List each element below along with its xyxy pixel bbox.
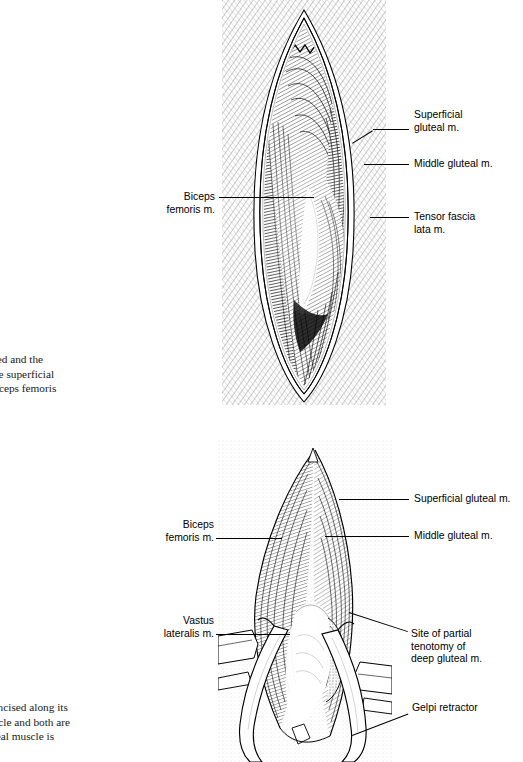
label-biceps-femoris-bottom: Biceps femoris m. <box>110 519 214 544</box>
caption-line: a lata and biceps femoris <box>0 381 56 396</box>
label-vastus-lateralis-bottom: Vastus lateralis m. <box>110 615 214 640</box>
label-line: gluteal m. <box>414 122 463 135</box>
label-line: Gelpi retractor <box>412 702 478 715</box>
caption-line: deep gluteal muscle is <box>0 729 70 744</box>
caption-top-figure: s are retracted and the to expose the su… <box>0 352 56 396</box>
label-line: femoris m. <box>110 532 214 545</box>
label-line: Middle gluteal m. <box>414 158 493 171</box>
leader-biceps-femoris-bottom <box>216 538 282 539</box>
label-line: tenotomy of <box>411 641 482 654</box>
figure-top-illustration <box>222 0 386 405</box>
caption-line: ia lata is incised along its <box>0 700 70 715</box>
caption-bottom-figure: ia lata is incised along its noris muscl… <box>0 700 70 744</box>
label-line: Biceps <box>110 519 214 532</box>
figure-top-svg <box>222 0 386 405</box>
leader-biceps-femoris-top <box>219 197 314 198</box>
caption-line: noris muscle and both are <box>0 715 70 730</box>
label-line: Tensor fascia <box>414 211 475 224</box>
label-line: Site of partial <box>411 628 482 641</box>
leader-middle-gluteal-top <box>364 164 409 165</box>
label-line: lateralis m. <box>110 628 214 641</box>
figure-bottom-svg <box>218 440 392 762</box>
leader-tensor-fascia-lata-top <box>370 217 409 218</box>
label-line: Superficial <box>414 109 463 122</box>
label-line: femoris m. <box>112 204 215 217</box>
leader-middle-gluteal-bottom <box>325 536 409 537</box>
label-line: Middle gluteal m. <box>414 530 493 543</box>
label-superficial-gluteal-top: Superficial gluteal m. <box>414 109 463 134</box>
label-line: lata m. <box>414 224 475 237</box>
label-site-of-partial-tenotomy: Site of partial tenotomy of deep gluteal… <box>411 628 482 666</box>
leader-vastus-lateralis-bottom <box>216 634 290 635</box>
label-line: deep gluteal m. <box>411 653 482 666</box>
figure-bottom-illustration <box>218 440 392 762</box>
label-line: Biceps <box>112 191 215 204</box>
atlas-page: Superficial gluteal m. Middle gluteal m.… <box>0 0 523 762</box>
leader-superficial-gluteal-top <box>373 129 409 130</box>
label-middle-gluteal-bottom: Middle gluteal m. <box>414 530 493 543</box>
label-biceps-femoris-top: Biceps femoris m. <box>112 191 215 216</box>
label-tensor-fascia-lata-top: Tensor fascia lata m. <box>414 211 475 236</box>
label-line: Superficial gluteal m. <box>414 493 510 506</box>
label-gelpi-retractor: Gelpi retractor <box>412 702 478 715</box>
leader-superficial-gluteal-bottom <box>339 499 409 500</box>
label-line: Vastus <box>110 615 214 628</box>
caption-line: s are retracted and the <box>0 352 56 367</box>
label-superficial-gluteal-bottom: Superficial gluteal m. <box>414 493 510 506</box>
label-middle-gluteal-top: Middle gluteal m. <box>414 158 493 171</box>
caption-line: to expose the superficial <box>0 367 56 382</box>
